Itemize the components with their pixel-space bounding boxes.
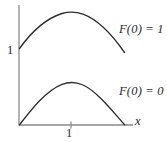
y-axis-tick-label-one: 1 [7,44,13,57]
figure-container: F(0) = 1 F(0) = 0 1 1 x [0,0,167,142]
x-axis-name-label: x [135,115,141,128]
curve-f0-equals-0 [20,82,125,124]
x-axis-tick-label-one: 1 [66,127,72,140]
curve-f0-equals-1 [20,12,125,52]
series-label-f0-equals-1: F(0) = 1 [119,23,164,36]
series-label-f0-equals-0: F(0) = 0 [119,85,164,98]
